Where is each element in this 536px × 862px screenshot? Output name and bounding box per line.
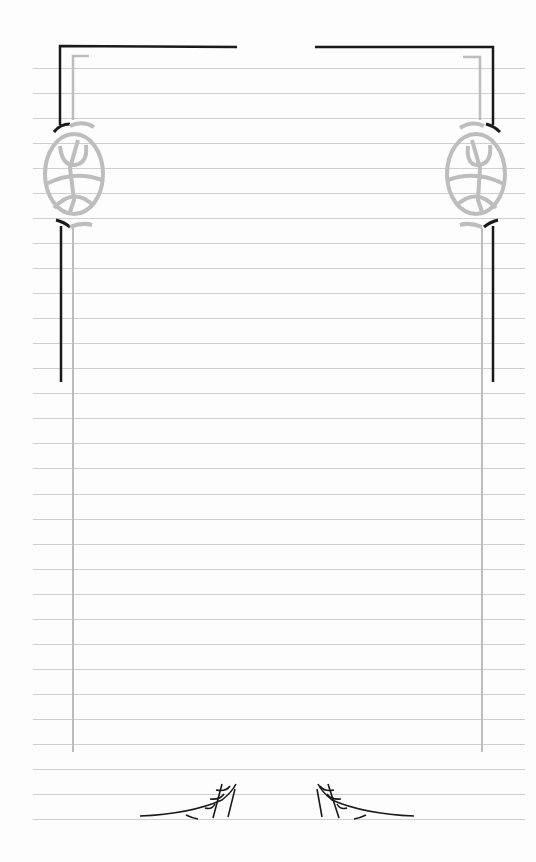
stationery-page: [0, 0, 536, 862]
spider-web-corner-icon: [317, 784, 414, 819]
top-right-frame: [315, 47, 500, 132]
right-lower-frame: [460, 220, 498, 752]
top-left-frame: [54, 46, 237, 132]
celtic-oval-knot-icon: [45, 134, 103, 214]
frame-ornaments: [0, 0, 536, 862]
celtic-oval-knot-icon: [447, 134, 505, 214]
left-lower-frame: [56, 220, 92, 752]
spider-web-corner-icon: [140, 784, 236, 819]
